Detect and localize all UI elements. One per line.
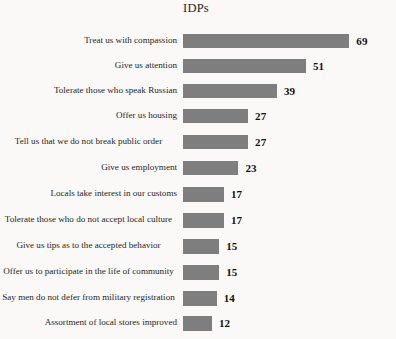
bar <box>183 187 224 202</box>
bar <box>183 161 238 175</box>
bar-value-label: 27 <box>255 110 266 122</box>
bar <box>183 291 217 306</box>
bar-area: 69 <box>183 28 396 53</box>
bar-value-label: 51 <box>313 60 324 72</box>
bar-area: 14 <box>183 285 396 311</box>
bar-value-label: 17 <box>231 214 242 226</box>
bar-category-label: Tolerate those who do not accept local c… <box>0 214 183 225</box>
bar-chart: IDPs Treat us with compassion69Give us a… <box>0 0 396 339</box>
bar-area: 27 <box>183 103 396 128</box>
bar-area: 17 <box>183 207 396 233</box>
bar-area: 23 <box>183 155 396 181</box>
bar <box>183 213 224 228</box>
bar-value-label: 39 <box>284 85 295 97</box>
bar <box>183 316 212 331</box>
bar-area: 27 <box>183 128 396 155</box>
bar-row: Say men do not defer from military regis… <box>0 285 396 311</box>
bar-row: Give us attention51 <box>0 53 396 78</box>
bar-category-label: Assortment of local stores improved <box>0 317 183 328</box>
bar-category-label: Tolerate those who speak Russian <box>0 85 183 96</box>
bar-row: Tolerate those who speak Russian39 <box>0 78 396 103</box>
bar-row: Treat us with compassion69 <box>0 28 396 53</box>
bar <box>183 265 219 280</box>
bar-category-label: Give us employment <box>0 162 183 173</box>
bar <box>183 59 306 73</box>
bar-row: Locals take interest in our customs17 <box>0 181 396 207</box>
bar-row: Tolerate those who do not accept local c… <box>0 207 396 233</box>
bar-area: 15 <box>183 259 396 285</box>
bar-category-label: Give us attention <box>0 60 183 71</box>
bar-category-label: Locals take interest in our customs <box>0 188 183 199</box>
bar <box>183 135 248 149</box>
bar <box>183 109 248 123</box>
bar-area: 15 <box>183 233 396 259</box>
bar-row: Offer us housing27 <box>0 103 396 128</box>
bar-area: 51 <box>183 53 396 78</box>
bar-category-label: Give us tips as to the accepted behavior <box>0 240 183 251</box>
bar-area: 17 <box>183 181 396 207</box>
bar-value-label: 27 <box>255 136 266 148</box>
bar-row: Offer us to participate in the life of c… <box>0 259 396 285</box>
bar-category-label: Offer us housing <box>0 110 183 121</box>
bar-row: Tell us that we do not break public orde… <box>0 128 396 155</box>
bar <box>183 84 277 98</box>
bar-category-label: Tell us that we do not break public orde… <box>0 136 183 147</box>
bar-value-label: 17 <box>231 188 242 200</box>
bar-row: Assortment of local stores improved12 <box>0 311 396 335</box>
chart-rows: Treat us with compassion69Give us attent… <box>0 28 396 335</box>
bar-row: Give us employment23 <box>0 155 396 181</box>
bar <box>183 34 349 48</box>
bar-value-label: 15 <box>226 266 237 278</box>
chart-title: IDPs <box>0 1 392 16</box>
bar <box>183 239 219 254</box>
bar-category-label: Treat us with compassion <box>0 35 183 46</box>
bar-area: 39 <box>183 78 396 103</box>
bar-category-label: Say men do not defer from military regis… <box>0 292 183 303</box>
bar-value-label: 69 <box>356 35 367 47</box>
bar-value-label: 15 <box>226 240 237 252</box>
bar-row: Give us tips as to the accepted behavior… <box>0 233 396 259</box>
bar-value-label: 14 <box>224 292 235 304</box>
bar-category-label: Offer us to participate in the life of c… <box>0 266 183 277</box>
bar-area: 12 <box>183 311 396 335</box>
bar-value-label: 23 <box>245 162 256 174</box>
bar-value-label: 12 <box>219 317 230 329</box>
